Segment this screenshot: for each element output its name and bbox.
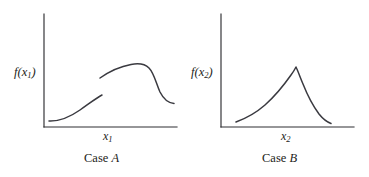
y-axis-label-case-b: f(x2) (191, 66, 213, 80)
caption-letter: B (289, 151, 297, 165)
curve-case-a-right-branch (100, 64, 174, 104)
curve-case-b-peak (236, 67, 331, 124)
caption-prefix: Case (84, 151, 108, 165)
y-axis-label-case-a: f(x1) (14, 66, 36, 80)
caption-prefix: Case (262, 151, 286, 165)
panel-case-a: f(x1) x1 Case A (0, 0, 184, 177)
x-axis-label-case-a: x1 (103, 130, 113, 144)
figure-canvas: f(x1) x1 Case A f(x2) x2 Case B (0, 0, 369, 177)
caption-letter: A (111, 151, 119, 165)
panel-case-b: f(x2) x2 Case B (185, 0, 369, 177)
x-axis-label-case-b: x2 (281, 130, 291, 144)
x-label-sub: 2 (286, 134, 290, 144)
caption-case-b: Case B (262, 152, 297, 165)
curve-case-a-left-branch (49, 95, 102, 121)
x-label-sub: 1 (108, 134, 112, 144)
caption-case-a: Case A (84, 152, 119, 165)
